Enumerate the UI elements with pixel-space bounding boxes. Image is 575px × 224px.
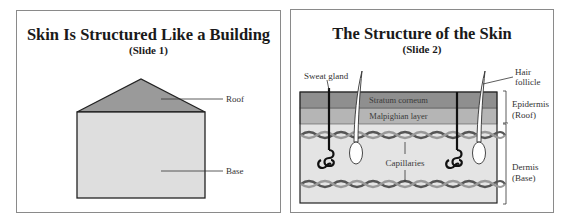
dermis-label-line1: Dermis — [512, 162, 539, 172]
capillaries-label: Capillaries — [291, 158, 519, 168]
dermis-label-line2: (Base) — [512, 173, 536, 183]
hair-label-line2: follicle — [515, 77, 541, 87]
epidermis-label-line1: Epidermis — [512, 99, 549, 109]
building-diagram — [17, 11, 282, 214]
malpighian-layer-label: Malpighian layer — [291, 111, 506, 121]
hair-label-line1: Hair — [515, 67, 531, 77]
base-label: Base — [226, 166, 244, 176]
slide-2-skin-structure: The Structure of the Skin (Slide 2) — [290, 9, 554, 213]
sweat-gland-label: Sweat gland — [304, 71, 348, 81]
epidermis-label-line2: (Roof) — [512, 110, 536, 120]
slide-1-building-analogy: Skin Is Structured Like a Building (Slid… — [16, 10, 281, 213]
base-shape — [77, 112, 205, 198]
hair-follicle-leader — [483, 77, 513, 84]
stratum-corneum-label: Stratum corneum — [291, 95, 506, 105]
roof-shape — [77, 79, 205, 112]
roof-label: Roof — [226, 94, 244, 104]
